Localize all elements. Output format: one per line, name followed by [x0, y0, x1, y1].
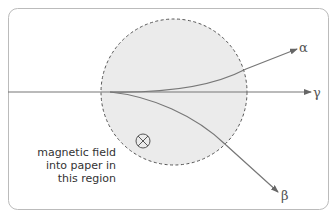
field-label-line1: magnetic field: [37, 146, 116, 159]
gamma-label: γ: [313, 85, 321, 100]
field-label-line2: into paper in: [46, 159, 116, 172]
beta-label: β: [281, 188, 289, 203]
field-label-line3: this region: [58, 172, 116, 185]
radiation-deflection-diagram: α γ β magnetic field into paper in this …: [0, 0, 336, 219]
alpha-label: α: [299, 40, 308, 55]
